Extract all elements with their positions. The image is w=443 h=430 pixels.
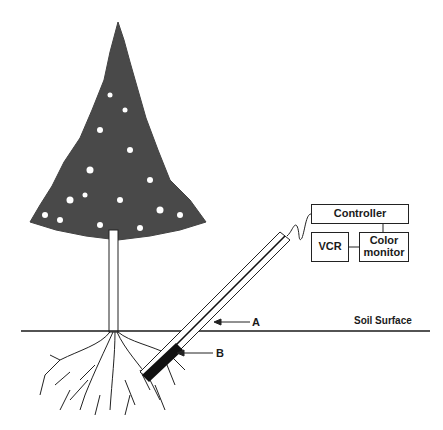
tree-crown-icon xyxy=(30,22,206,240)
vcr-label: VCR xyxy=(318,241,341,253)
label-a: A xyxy=(252,317,260,328)
cable xyxy=(287,214,311,240)
color-monitor-box: Color monitor xyxy=(359,232,409,262)
arrow-b-icon xyxy=(177,350,213,356)
controller-box: Controller xyxy=(311,204,409,224)
controller-label: Controller xyxy=(334,208,387,220)
monitor-label-line2: monitor xyxy=(364,247,405,259)
soil-surface-label: Soil Surface xyxy=(354,316,412,326)
vcr-box: VCR xyxy=(311,232,349,262)
tree-trunk xyxy=(109,230,118,332)
diagram-canvas: A B Soil Surface Controller VCR Color mo… xyxy=(0,0,443,430)
tree-roots-icon xyxy=(40,332,185,415)
arrow-a-icon xyxy=(214,319,250,325)
label-b: B xyxy=(216,348,224,359)
